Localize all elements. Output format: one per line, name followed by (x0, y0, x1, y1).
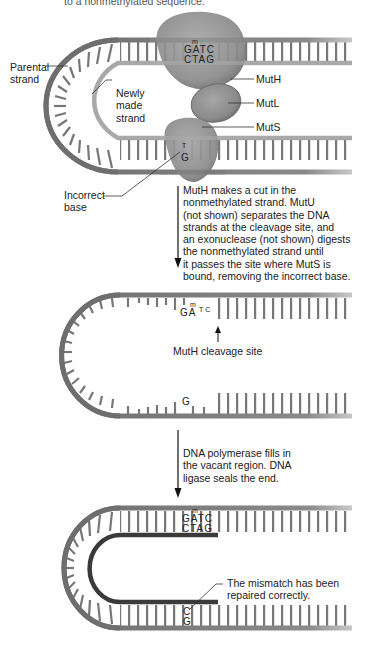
p3-repaired-bottom: G (183, 616, 191, 627)
label-incorrect-base: Incorrect base (64, 189, 105, 214)
p2-seq-left: GA (180, 307, 196, 318)
label-parental-strand: Parental strand (10, 61, 49, 86)
label-muth: MutH (256, 73, 281, 85)
partial-caption: to a nonmethylated sequence. (64, 0, 205, 7)
label-repaired: The mismatch has been repaired correctly… (227, 577, 339, 602)
p1-seq-bottom: CTAG (184, 54, 215, 65)
p1-mismatch-top: T (182, 142, 187, 149)
p2-seq-right: TC (199, 306, 212, 313)
p3-seq-bottom: CTAG (182, 523, 213, 534)
mismatch-repair-diagram: m GATC CTAG T G (0, 0, 368, 648)
p1-mismatch-bottom: G (181, 152, 189, 163)
label-newly-made-strand: Newly made strand (116, 87, 145, 124)
label-cleavage-site: MutH cleavage site (173, 345, 262, 357)
label-mutl: MutL (256, 97, 279, 109)
step1-description: MutH makes a cut in the nonmethylated st… (183, 184, 351, 282)
label-muts: MutS (256, 121, 281, 133)
panel1-bottom-rungs (120, 140, 352, 160)
p2-bottom-base: G (182, 396, 190, 407)
step2-description: DNA polymerase fills in the vacant regio… (183, 447, 292, 484)
